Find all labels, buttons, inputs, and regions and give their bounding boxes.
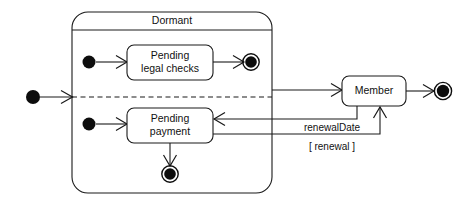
dormant-title: Dormant	[152, 14, 192, 26]
state-member[interactable]: Member	[342, 76, 406, 106]
transition-label-renewal-date: renewalDate	[304, 122, 361, 133]
transition-member-to-final[interactable]	[406, 85, 434, 98]
initial-node-outer-icon	[26, 90, 40, 104]
initial-node-top-icon	[83, 56, 96, 69]
final-node-top-core	[245, 56, 257, 68]
transition-dormant-to-member[interactable]	[272, 84, 342, 97]
final-node-outer-core	[437, 85, 449, 97]
state-label-member: Member	[355, 84, 394, 96]
state-label-line2: legal checks	[141, 62, 199, 74]
uml-state-diagram: Dormant Pending legal checks	[0, 0, 475, 203]
final-node-bottom-core	[164, 168, 176, 180]
transition-initial-to-dormant[interactable]	[40, 91, 73, 104]
state-label-line1: Pending	[151, 112, 190, 124]
state-label-line1: Pending	[151, 49, 190, 61]
final-state-outer[interactable]	[434, 82, 451, 99]
state-pending-payment[interactable]: Pending payment	[127, 108, 213, 143]
state-label-line2: payment	[150, 125, 190, 137]
diagram-canvas: Dormant Pending legal checks	[0, 0, 475, 203]
initial-state-outer[interactable]	[26, 90, 40, 104]
transition-label-renewal-guard: [ renewal ]	[309, 141, 355, 152]
state-pending-legal-checks[interactable]: Pending legal checks	[127, 45, 213, 80]
initial-state-bottom-region[interactable]	[83, 118, 96, 131]
initial-node-bottom-icon	[83, 118, 96, 131]
initial-state-top-region[interactable]	[83, 56, 96, 69]
final-state-bottom-region[interactable]	[162, 166, 178, 182]
final-state-top-region[interactable]	[243, 54, 259, 70]
